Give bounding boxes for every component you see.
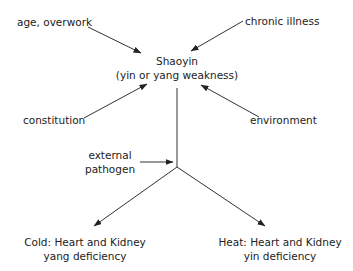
arrow-age-overwork — [88, 27, 141, 53]
arrow-to-heat — [177, 167, 265, 226]
outcome-heat: Heat: Heart and Kidney yin deficiency — [218, 235, 341, 263]
outcome-cold-line2: yang deficiency — [24, 249, 146, 263]
outcome-heat-line2: yin deficiency — [218, 249, 341, 263]
arrow-chronic-illness — [191, 21, 243, 51]
cause-age-overwork: age, overwork — [17, 15, 92, 29]
center-node-title: Shaoyin — [116, 54, 238, 68]
outcome-cold-line1: Cold: Heart and Kidney — [24, 235, 146, 249]
cause-constitution: constitution — [23, 113, 85, 127]
arrow-constitution — [84, 84, 147, 118]
outcome-heat-line1: Heat: Heart and Kidney — [218, 235, 341, 249]
outcome-cold: Cold: Heart and Kidney yang deficiency — [24, 235, 146, 263]
diagram-edges — [0, 0, 353, 271]
external-pathogen-line2: pathogen — [85, 162, 135, 176]
center-node: Shaoyin (yin or yang weakness) — [116, 54, 238, 82]
cause-chronic-illness: chronic illness — [245, 14, 319, 28]
center-node-subtitle: (yin or yang weakness) — [116, 68, 238, 82]
cause-environment: environment — [250, 113, 317, 127]
cause-external-pathogen: external pathogen — [85, 148, 135, 176]
external-pathogen-line1: external — [85, 148, 135, 162]
